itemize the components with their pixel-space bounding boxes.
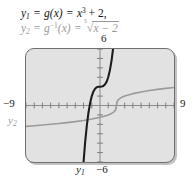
equation-y2-equals-2: = — [73, 22, 82, 34]
axes-group — [26, 49, 174, 162]
window-label-ymax: 6 — [101, 32, 107, 44]
equation-y1-equals-1: = — [33, 7, 42, 19]
window-label-xmax: 9 — [180, 97, 186, 109]
equation-y2-lhs-subscript: 2 — [26, 27, 30, 36]
equation-y2-argument: (x) — [58, 22, 71, 34]
figure-container: y1 = g(x) = x3 + 2, y2 = g−1(x) = 3√x − … — [0, 0, 195, 181]
equation-y1: y1 = g(x) = x3 + 2, — [21, 6, 107, 21]
equation-y1-lhs-subscript: 1 — [26, 12, 30, 21]
equation-y1-equals-2: = — [66, 7, 75, 19]
equation-y1-constant-term: + 2, — [89, 7, 107, 19]
equation-y1-argument: (x) — [50, 7, 63, 19]
radical-index: 3 — [84, 18, 87, 24]
graph-svg — [26, 49, 174, 162]
curve-label-y2-sub: 2 — [13, 119, 17, 128]
equation-y2-equals-1: = — [33, 22, 42, 34]
curve-label-y1: y1 — [76, 163, 85, 177]
calculator-screen — [25, 48, 175, 163]
equation-y2-inverse-exponent: −1 — [50, 21, 58, 30]
window-label-ymin: −6 — [96, 163, 108, 175]
equation-y1-exponent: 3 — [82, 6, 86, 15]
curve-label-y2: y2 — [8, 114, 17, 128]
window-label-xmin: −9 — [3, 97, 15, 109]
curve-label-y1-sub: 1 — [81, 168, 85, 177]
